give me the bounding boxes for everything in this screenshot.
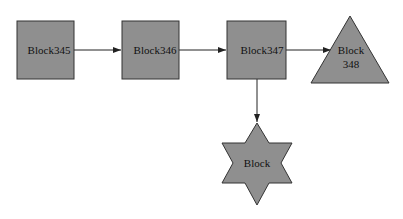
node-label: Block346: [134, 44, 177, 56]
node-label: Block: [244, 157, 271, 169]
node-label: Block347: [241, 44, 284, 56]
node-label-line2: 348: [343, 58, 360, 70]
flow-diagram: Block345 Block346 Block347 Block 348 Blo…: [0, 0, 403, 219]
node-block346[interactable]: Block346: [122, 21, 179, 79]
node-block345[interactable]: Block345: [17, 21, 74, 79]
node-block-star[interactable]: Block: [222, 123, 292, 205]
node-block347[interactable]: Block347: [227, 21, 286, 79]
node-label-line1: Block: [338, 44, 365, 56]
node-label: Block345: [28, 44, 71, 56]
